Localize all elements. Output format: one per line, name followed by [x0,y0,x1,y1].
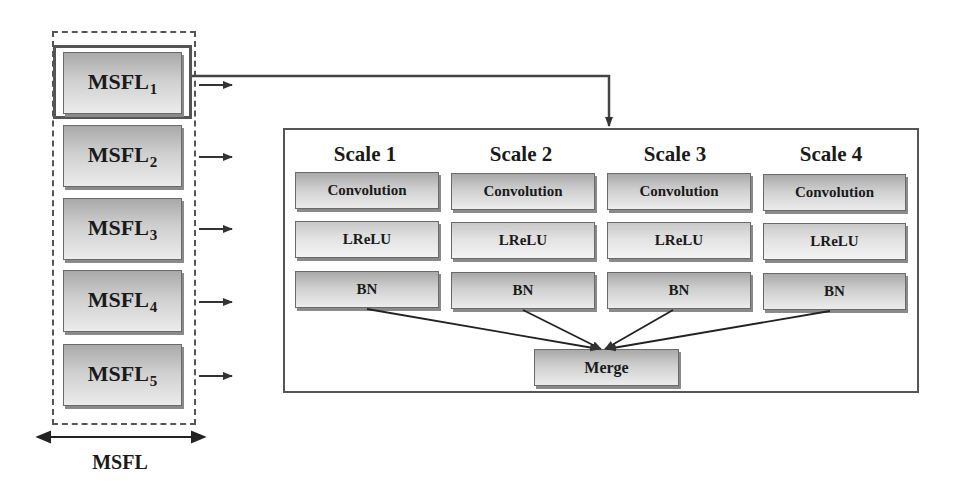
scale-1-convolution: Convolution [295,172,439,209]
scale-2-bn: BN [451,272,595,309]
scale-4-convolution: Convolution [763,174,906,211]
scale-2-convolution: Convolution [451,173,595,210]
scale-3-convolution: Convolution [607,173,751,210]
msfl-5-label: MSFL5 [88,361,158,390]
scale-3-lrelu: LReLU [607,222,751,259]
msfl-1-box: MSFL1 [63,52,182,114]
msfl-output-arrows [199,85,232,376]
msfl-2-box: MSFL2 [63,125,182,187]
merge-box: Merge [534,349,679,386]
scale-4-lrelu: LReLU [763,223,906,260]
msfl-3-label: MSFL3 [88,215,158,244]
msfl-group-label: MSFL [70,451,170,474]
scale-4-title: Scale 4 [762,142,900,167]
scale-3-bn: BN [607,272,751,309]
scale-3-title: Scale 3 [606,142,744,167]
msfl-1-label: MSFL1 [88,69,158,98]
scale-1-title: Scale 1 [296,142,434,167]
msfl-3-box: MSFL3 [63,198,182,260]
scale-2-lrelu: LReLU [451,222,595,259]
msfl-4-label: MSFL4 [88,287,158,316]
scale-4-bn: BN [763,273,906,310]
msfl-5-box: MSFL5 [63,344,182,406]
msfl-1-to-scale-block-connector [192,76,609,126]
scale-2-title: Scale 2 [452,142,590,167]
msfl-2-label: MSFL2 [88,142,158,171]
scale-1-bn: BN [295,271,439,308]
scale-1-lrelu: LReLU [295,221,439,258]
msfl-span-arrow [38,432,204,442]
msfl-4-box: MSFL4 [63,270,182,332]
